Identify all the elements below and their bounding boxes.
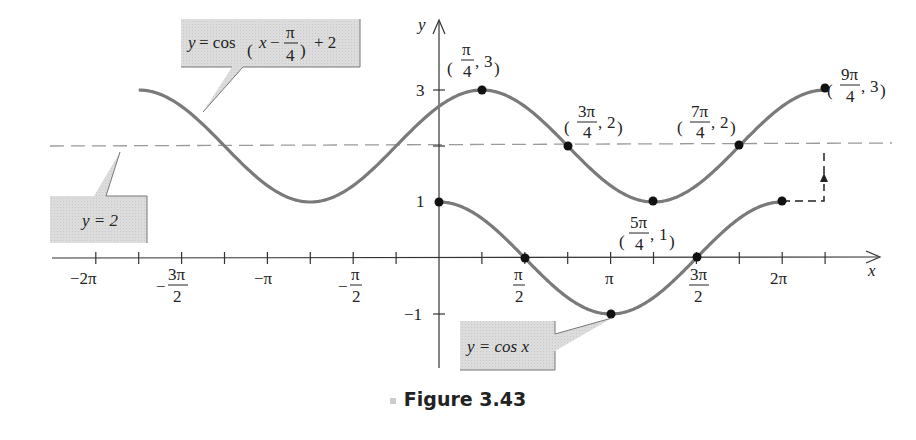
svg-text:4: 4 — [583, 123, 592, 142]
svg-text:3π: 3π — [690, 265, 708, 284]
svg-text:2: 2 — [720, 113, 729, 132]
curve-cos-shifted — [139, 90, 825, 202]
svg-text:): ) — [669, 232, 675, 251]
midline-dashed — [50, 143, 892, 146]
svg-text:−: − — [338, 277, 348, 296]
x-tick-3pi2: 3π 2 — [689, 265, 709, 306]
svg-text:(: ( — [447, 59, 453, 78]
svg-text:(: ( — [247, 41, 253, 60]
svg-text:3π: 3π — [578, 102, 596, 121]
svg-text:π: π — [462, 40, 471, 59]
svg-text:(: ( — [677, 118, 683, 137]
point-label-3pi4-2: ( 3π 4 , 2 ) — [564, 102, 623, 142]
svg-text:7π: 7π — [691, 102, 709, 121]
x-tick-pi: π — [605, 269, 614, 288]
svg-text:2: 2 — [515, 287, 524, 306]
svg-text:y = cos x: y = cos x — [465, 337, 529, 356]
svg-text:y = 2: y = 2 — [80, 211, 119, 230]
x-tick-m3pi2: − 3π 2 — [156, 265, 188, 306]
point-label-5pi4-1: ( 5π 4 , 1 ) — [619, 213, 675, 254]
svg-text:(: ( — [827, 81, 833, 100]
svg-text:,: , — [861, 77, 865, 96]
svg-text:): ) — [880, 81, 886, 100]
svg-text:4: 4 — [463, 62, 472, 81]
svg-text:3π: 3π — [168, 265, 186, 284]
svg-text:−: − — [270, 33, 280, 52]
svg-text:x: x — [258, 33, 267, 52]
svg-text:4: 4 — [696, 123, 705, 142]
svg-text:): ) — [617, 118, 623, 137]
svg-text:9π: 9π — [841, 65, 859, 84]
svg-text:3: 3 — [484, 52, 493, 71]
svg-text:2: 2 — [173, 287, 182, 306]
x-tick-mpi2: − π 2 — [338, 265, 362, 306]
point-label-9pi4-3: ( 9π 4 , 3 ) — [827, 65, 886, 106]
y-axis — [433, 20, 445, 368]
y-axis-label: y — [416, 15, 426, 34]
x-tick-pi2: π 2 — [513, 265, 525, 306]
svg-text:1: 1 — [659, 225, 668, 244]
point-label-pi4-3: ( π 4 , 3 ) — [447, 40, 500, 81]
svg-text:): ) — [494, 59, 500, 78]
svg-text:2: 2 — [352, 287, 361, 306]
caption-text: Figure 3.43 — [404, 388, 526, 410]
shifted-key-points — [478, 84, 830, 206]
x-axis-label: x — [867, 261, 876, 280]
svg-text:3: 3 — [870, 77, 879, 96]
x-tick-m2pi: −2π — [70, 269, 97, 288]
graph-canvas: y x 3 1 −1 −2π − 3π 2 −π − π 2 π 2 π 3π … — [0, 0, 916, 440]
svg-text:(: ( — [564, 118, 570, 137]
caption-bullet-icon — [390, 398, 396, 404]
svg-text:,: , — [650, 225, 654, 244]
svg-text:−: − — [156, 277, 166, 296]
svg-text:5π: 5π — [630, 213, 648, 232]
y-tick-1: 1 — [416, 192, 425, 211]
svg-text:+ 2: + 2 — [314, 33, 336, 52]
svg-text:π: π — [286, 23, 295, 42]
svg-text:): ) — [300, 41, 306, 60]
svg-text:2: 2 — [694, 287, 703, 306]
x-axis — [52, 251, 880, 263]
x-tick-mpi: −π — [254, 269, 273, 288]
svg-text:,: , — [475, 52, 479, 71]
callout-midline: y = 2 — [50, 152, 147, 243]
svg-text:,: , — [711, 113, 715, 132]
callout-shifted-equation: y = cos ( x − π 4 ) + 2 — [181, 19, 360, 112]
point-label-7pi4-2: ( 7π 4 , 2 ) — [677, 102, 736, 142]
svg-text:4: 4 — [635, 235, 644, 254]
shift-arrow — [782, 150, 828, 201]
x-tick-2pi: 2π — [770, 269, 788, 288]
callout-cos: y = cos x — [460, 318, 612, 370]
svg-text:4: 4 — [286, 46, 295, 65]
svg-text:π: π — [514, 265, 523, 284]
svg-text:(: ( — [619, 232, 625, 251]
svg-text:= cos: = cos — [199, 33, 236, 52]
y-tick-neg1: −1 — [404, 305, 422, 324]
svg-text:): ) — [730, 118, 736, 137]
svg-text:π: π — [351, 265, 360, 284]
svg-text:,: , — [598, 113, 602, 132]
y-tick-3: 3 — [416, 81, 425, 100]
svg-text:2: 2 — [607, 113, 616, 132]
svg-text:4: 4 — [846, 87, 855, 106]
svg-text:y: y — [186, 33, 196, 52]
figure-caption: Figure 3.43 — [0, 388, 916, 410]
